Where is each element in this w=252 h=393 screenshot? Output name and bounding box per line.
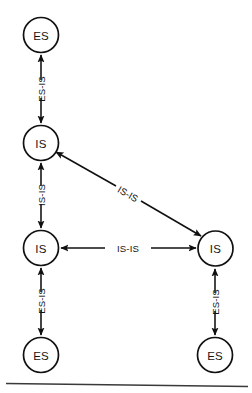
node-label: ES bbox=[33, 30, 49, 42]
node-label: IS bbox=[35, 138, 46, 150]
node-es-top-left[interactable]: ES bbox=[24, 18, 59, 53]
diagram-canvas: ES-IS IS-IS IS-IS IS-IS ES-IS bbox=[0, 0, 252, 393]
node-is-right[interactable]: IS bbox=[198, 231, 233, 266]
edge-label: IS-IS bbox=[36, 184, 47, 206]
edge-es-top-left-to-is-upper-left: ES-IS bbox=[36, 55, 47, 123]
node-is-mid-left[interactable]: IS bbox=[24, 231, 59, 266]
edge-label: ES-IS bbox=[36, 288, 47, 314]
edge-label: ES-IS bbox=[36, 76, 47, 102]
node-es-bottom-right[interactable]: ES bbox=[198, 338, 233, 373]
footer-divider bbox=[6, 384, 248, 387]
edge-label: IS-IS bbox=[117, 243, 139, 254]
edge-group: ES-IS IS-IS IS-IS IS-IS ES-IS bbox=[36, 55, 221, 335]
edge-is-upper-left-to-is-mid-left: IS-IS bbox=[36, 163, 47, 228]
node-label: IS bbox=[35, 243, 46, 255]
node-label: ES bbox=[207, 350, 223, 362]
network-topology-diagram: ES-IS IS-IS IS-IS IS-IS ES-IS bbox=[0, 0, 252, 393]
node-es-bottom-left[interactable]: ES bbox=[24, 338, 59, 373]
node-label: IS bbox=[210, 243, 221, 255]
edge-is-upper-left-to-is-right: IS-IS bbox=[56, 152, 201, 236]
edge-es-bottom-left-to-is-mid-left: ES-IS bbox=[36, 268, 47, 335]
node-is-upper-left[interactable]: IS bbox=[24, 126, 59, 161]
edge-label: IS-IS bbox=[116, 184, 140, 204]
node-label: ES bbox=[33, 350, 49, 362]
edge-es-bottom-right-to-is-right: ES-IS bbox=[210, 269, 221, 335]
edge-line bbox=[56, 152, 116, 186]
edge-label: ES-IS bbox=[210, 289, 221, 315]
edge-line bbox=[141, 201, 201, 236]
edge-is-mid-left-to-is-right: IS-IS bbox=[61, 243, 196, 254]
